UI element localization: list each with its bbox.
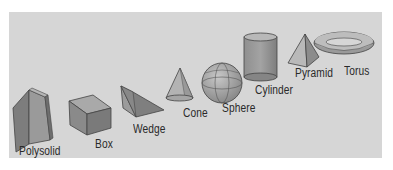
wedge-label: Wedge	[133, 122, 166, 136]
box-shape	[69, 95, 111, 135]
solid-primitives-figure: Polysolid Box Wedge Cone Sphere Cylinder…	[9, 12, 382, 158]
shapes-canvas	[9, 12, 382, 158]
torus-shape	[314, 32, 374, 54]
pyramid-label: Pyramid	[295, 66, 333, 80]
cylinder-label: Cylinder	[255, 83, 293, 97]
wedge-shape	[121, 86, 164, 117]
polysolid-shape	[13, 88, 53, 152]
sphere-shape	[202, 63, 242, 103]
cone-shape	[166, 68, 193, 101]
cylinder-shape	[244, 33, 277, 81]
box-label: Box	[95, 137, 113, 151]
polysolid-label: Polysolid	[19, 144, 61, 158]
torus-label: Torus	[344, 64, 369, 78]
sphere-label: Sphere	[222, 101, 255, 115]
cone-label: Cone	[183, 106, 208, 120]
pyramid-shape	[288, 34, 319, 67]
